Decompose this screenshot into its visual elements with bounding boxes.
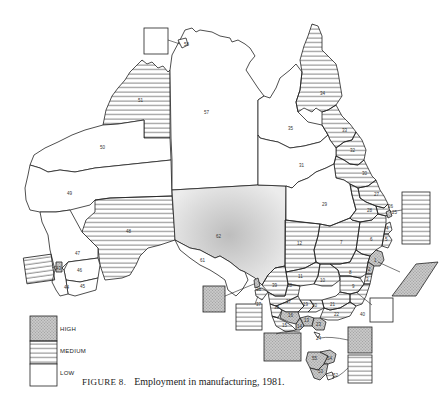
label-44: 44 <box>64 285 70 290</box>
label-11: 11 <box>298 274 303 279</box>
inset-geelong <box>348 327 372 353</box>
legend-swatch-low <box>30 364 57 386</box>
label-51: 51 <box>138 98 144 103</box>
label-47: 47 <box>75 251 81 256</box>
label-23: 23 <box>316 322 322 327</box>
label-62: 62 <box>216 234 222 239</box>
legend <box>30 316 57 386</box>
label-50: 50 <box>100 145 106 150</box>
region-57 <box>170 28 264 190</box>
leader-line <box>320 337 348 340</box>
legend-swatch-medium <box>30 341 57 364</box>
label-37: 37 <box>256 302 262 307</box>
label-17: 17 <box>286 299 292 304</box>
label-39: 39 <box>272 283 278 288</box>
label-28: 28 <box>367 208 373 213</box>
label-15: 15 <box>282 323 288 328</box>
label-52: 52 <box>333 373 339 378</box>
inset-spencer <box>236 304 262 330</box>
inset-perth <box>23 254 54 284</box>
label-49: 49 <box>67 191 73 196</box>
legend-label-medium: MEDIUM <box>60 348 86 354</box>
label-16: 16 <box>288 313 294 318</box>
leader-line <box>378 262 400 272</box>
label-32: 32 <box>350 148 356 153</box>
inset-adelaide <box>203 286 225 312</box>
inset-darwin <box>144 28 168 54</box>
label-43: 43 <box>56 266 62 271</box>
label-54: 54 <box>327 356 333 361</box>
legend-label-high: HIGH <box>60 326 76 332</box>
label-55: 55 <box>312 356 318 361</box>
label-21: 21 <box>330 302 336 307</box>
label-45: 45 <box>80 284 86 289</box>
label-14: 14 <box>297 324 303 329</box>
region-34 <box>296 24 342 112</box>
label-25: 25 <box>392 210 398 215</box>
inset-newcastle <box>370 298 393 322</box>
label-19: 19 <box>303 302 309 307</box>
label-22: 22 <box>334 312 340 317</box>
label-12: 12 <box>297 241 303 246</box>
label-30: 30 <box>362 171 368 176</box>
label-27: 27 <box>374 192 380 197</box>
label-35: 35 <box>288 126 294 131</box>
label-58: 58 <box>184 42 190 47</box>
label-26: 26 <box>388 204 394 209</box>
figure-title: Employment in manufacturing, 1981. <box>134 376 284 387</box>
inset-hobart <box>348 355 372 383</box>
label-61: 61 <box>200 258 206 263</box>
label-24: 24 <box>316 336 322 341</box>
inset-brisbane <box>402 192 430 244</box>
label-13: 13 <box>304 318 310 323</box>
label-34: 34 <box>320 91 326 96</box>
label-53: 53 <box>318 369 324 374</box>
figure-caption: FIGURE 8.Employment in manufacturing, 19… <box>82 376 284 387</box>
label-38: 38 <box>274 305 280 310</box>
label-10: 10 <box>320 278 326 283</box>
figure-number: FIGURE 8. <box>82 377 126 387</box>
label-36: 36 <box>256 287 262 292</box>
label-46: 46 <box>77 268 83 273</box>
legend-swatch-high <box>30 316 57 341</box>
label-31: 31 <box>299 163 305 168</box>
label-20: 20 <box>312 303 318 308</box>
label-48: 48 <box>126 229 132 234</box>
label-29: 29 <box>322 202 328 207</box>
figure-8-map: 51 50 49 48 47 46 45 44 43 57 58 62 61 3… <box>0 0 445 408</box>
inset-sydney <box>392 262 438 296</box>
legend-label-low: LOW <box>60 370 75 376</box>
label-33: 33 <box>342 128 348 133</box>
inset-melbourne <box>264 333 301 361</box>
label-40: 40 <box>360 312 366 317</box>
label-18: 18 <box>287 283 293 288</box>
label-57: 57 <box>204 110 210 115</box>
